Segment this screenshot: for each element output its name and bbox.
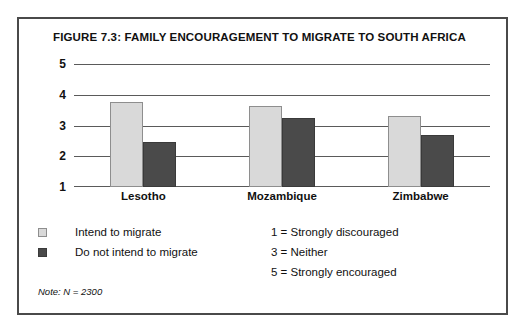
bar (249, 106, 282, 187)
bar (143, 142, 176, 187)
figure-note: Note: N = 2300 (38, 286, 102, 297)
legend-item-label: Intend to migrate (75, 226, 161, 238)
scale-key: 1 = Strongly discouraged 3 = Neither 5 =… (271, 222, 399, 282)
figure-title: FIGURE 7.3: FAMILY ENCOURAGEMENT TO MIGR… (53, 31, 466, 43)
bar-group (388, 64, 454, 187)
bar-group (249, 64, 315, 187)
scale-key-line: 5 = Strongly encouraged (271, 262, 399, 282)
y-tick-label: 3 (59, 120, 66, 132)
legend-swatch-icon (38, 228, 47, 237)
chart-bars (74, 64, 490, 187)
y-tick-label: 1 (59, 181, 66, 193)
scale-key-line: 1 = Strongly discouraged (271, 222, 399, 242)
scale-key-line: 3 = Neither (271, 242, 399, 262)
chart-legend: Intend to migrate Do not intend to migra… (38, 222, 198, 262)
bar (388, 116, 421, 187)
x-axis-category-labels: LesothoMozambiqueZimbabwe (74, 190, 490, 206)
bar-group (110, 64, 176, 187)
chart-plot-area: 54321 (52, 64, 490, 187)
category-label: Zimbabwe (393, 190, 449, 202)
y-tick-label: 5 (59, 58, 66, 70)
category-label: Lesotho (121, 190, 166, 202)
y-tick-label: 2 (59, 150, 66, 162)
bar (110, 102, 143, 187)
legend-swatch-icon (38, 248, 47, 257)
category-label: Mozambique (247, 190, 317, 202)
legend-item: Do not intend to migrate (38, 242, 198, 262)
figure-frame: FIGURE 7.3: FAMILY ENCOURAGEMENT TO MIGR… (17, 17, 508, 315)
bar (421, 135, 454, 187)
legend-item-label: Do not intend to migrate (75, 246, 198, 258)
bar (282, 118, 315, 187)
y-axis-tick-labels: 54321 (52, 64, 70, 187)
y-tick-label: 4 (59, 89, 66, 101)
legend-item: Intend to migrate (38, 222, 198, 242)
